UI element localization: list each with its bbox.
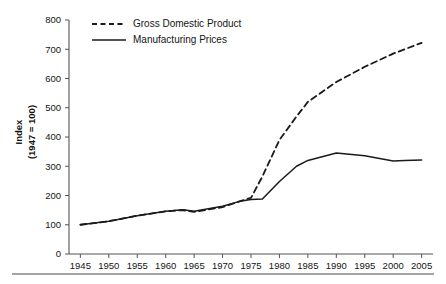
chart-figure: 0100200300400500600700800 Index (1947 = …	[0, 0, 446, 284]
x-tick-label: 1970	[212, 260, 233, 271]
chart-legend: Gross Domestic ProductManufacturing Pric…	[92, 18, 242, 45]
y-tick-label: 400	[45, 131, 61, 142]
x-tick-label: 2005	[411, 260, 432, 271]
x-tick-label: 1965	[184, 260, 205, 271]
x-tick-label: 1985	[297, 260, 318, 271]
x-tick-label: 1980	[269, 260, 290, 271]
y-tick-label: 300	[45, 161, 61, 172]
y-tick-label: 600	[45, 73, 61, 84]
y-tick-group: 0100200300400500600700800	[45, 14, 69, 259]
x-tick-label: 1945	[70, 260, 91, 271]
data-series-group	[80, 43, 421, 225]
y-axis-title-line1: Index	[13, 119, 24, 145]
x-tick-label: 1950	[98, 260, 119, 271]
line-chart: 0100200300400500600700800 Index (1947 = …	[0, 0, 446, 284]
y-axis-title-line2: (1947 = 100)	[26, 105, 37, 159]
y-tick-label: 200	[45, 190, 61, 201]
y-tick-label: 700	[45, 44, 61, 55]
y-tick-label: 100	[45, 219, 61, 230]
legend-label: Gross Domestic Product	[133, 18, 242, 29]
y-tick-label: 500	[45, 102, 61, 113]
x-tick-group: 1945195019551960196519701975198019851990…	[70, 254, 432, 271]
series-line-manufacturing-prices	[80, 153, 421, 225]
x-tick-label: 1955	[127, 260, 148, 271]
x-tick-label: 1990	[326, 260, 347, 271]
legend-label: Manufacturing Prices	[133, 34, 227, 45]
x-tick-label: 1960	[155, 260, 176, 271]
series-line-gross-domestic-product	[80, 43, 421, 225]
x-tick-label: 1975	[240, 260, 261, 271]
x-axis: 1945195019551960196519701975198019851990…	[69, 254, 433, 271]
y-axis: 0100200300400500600700800 Index (1947 = …	[13, 14, 69, 259]
x-tick-label: 1995	[354, 260, 375, 271]
y-tick-label: 800	[45, 14, 61, 25]
y-tick-label: 0	[56, 248, 61, 259]
x-tick-label: 2000	[383, 260, 404, 271]
